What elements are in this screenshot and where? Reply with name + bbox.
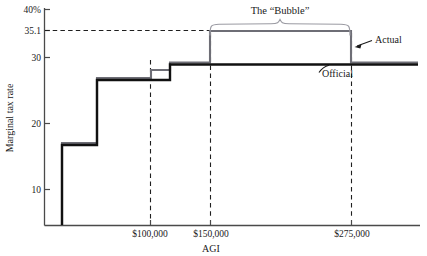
official-annotation: Official xyxy=(319,65,353,79)
y-tick-label-20: 20 xyxy=(32,119,42,129)
x-tick-label-150k: $150,000 xyxy=(193,229,229,239)
y-tick-label-10: 10 xyxy=(32,185,42,195)
bubble-annotation-label: The “Bubble” xyxy=(251,5,310,16)
x-tick-label-100k: $100,000 xyxy=(132,229,168,239)
reference-lines xyxy=(45,31,352,220)
bubble-brace xyxy=(210,20,350,36)
x-tick-label-275k: $275,000 xyxy=(334,229,370,239)
series-official-line xyxy=(62,65,418,226)
marginal-tax-rate-chart: 40% 35.1 30 20 10 $100,000 $150,000 $275… xyxy=(0,0,427,256)
y-axis-title: Marginal tax rate xyxy=(4,83,15,152)
x-axis-ticks xyxy=(151,220,352,226)
chart-figure: 40% 35.1 30 20 10 $100,000 $150,000 $275… xyxy=(0,0,427,256)
series-actual-line xyxy=(62,31,418,225)
official-annotation-label: Official xyxy=(322,68,353,79)
y-axis-ticks xyxy=(45,10,51,190)
axes xyxy=(45,8,421,226)
actual-annotation-label: Actual xyxy=(375,34,402,45)
actual-annotation: Actual xyxy=(355,34,402,49)
y-axis-tick-labels: 40% 35.1 30 20 10 xyxy=(24,5,42,195)
y-tick-label-30: 30 xyxy=(32,53,42,63)
x-axis-tick-labels: $100,000 $150,000 $275,000 xyxy=(132,229,370,239)
x-axis-title: AGI xyxy=(202,243,220,254)
actual-arrow-head xyxy=(355,44,362,48)
y-tick-label-40: 40% xyxy=(24,5,42,15)
y-tick-label-35: 35.1 xyxy=(24,26,41,36)
